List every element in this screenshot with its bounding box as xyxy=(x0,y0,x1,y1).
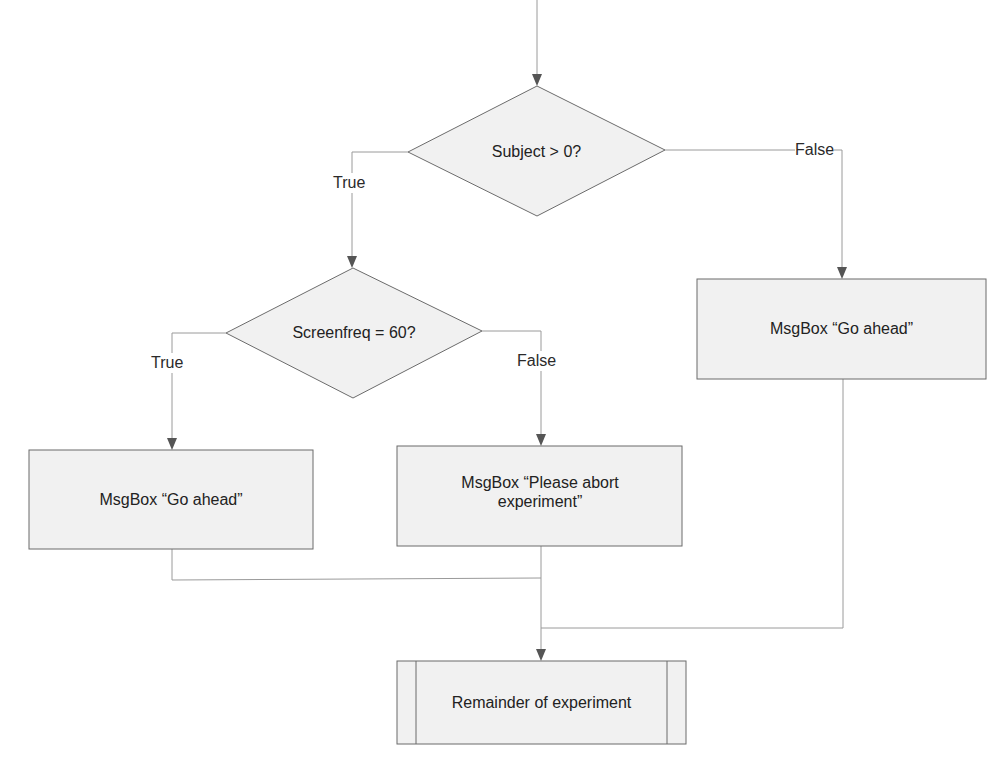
arrow-icon xyxy=(532,74,542,86)
decision-screenfreq-text: Screenfreq = 60? xyxy=(292,323,415,342)
msg-go-ahead-right-text: MsgBox “Go ahead” xyxy=(770,319,913,338)
edge-label-subject-false: False xyxy=(795,141,834,159)
decision-subject: Subject > 0? xyxy=(408,86,665,216)
arrow-icon xyxy=(536,434,546,446)
msg-go-ahead-left: MsgBox “Go ahead” xyxy=(29,450,313,549)
msg-go-ahead-right: MsgBox “Go ahead” xyxy=(697,279,986,377)
msg-abort: MsgBox “Please abort experiment” xyxy=(455,446,625,538)
msg-go-ahead-left-text: MsgBox “Go ahead” xyxy=(99,490,242,509)
arrow-icon xyxy=(536,649,546,661)
msg-abort-text: MsgBox “Please abort experiment” xyxy=(455,473,625,511)
screenfreq-false-connector xyxy=(482,331,541,437)
edge-label-subject-true: True xyxy=(333,173,365,193)
arrow-icon xyxy=(167,438,177,450)
remainder-text: Remainder of experiment xyxy=(452,693,632,712)
remainder-of-experiment: Remainder of experiment xyxy=(416,661,667,744)
decision-screenfreq: Screenfreq = 60? xyxy=(226,268,482,396)
arrow-icon xyxy=(837,267,847,279)
arrow-icon xyxy=(347,256,357,268)
screenfreq-true-connector xyxy=(172,333,226,441)
edge-label-screenfreq-false: False xyxy=(517,351,556,371)
left-box-merge-connector xyxy=(172,549,541,580)
subject-false-connector xyxy=(665,150,842,270)
decision-subject-text: Subject > 0? xyxy=(492,142,581,161)
edge-label-screenfreq-true: True xyxy=(151,353,183,373)
subject-true-connector xyxy=(352,152,408,258)
